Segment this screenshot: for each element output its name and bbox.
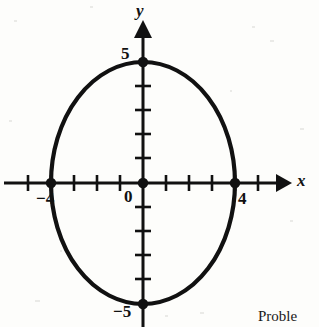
x-axis-label: x [297,172,306,189]
x-intercept-negative-label: −4 [36,190,54,207]
plot-canvas [0,0,319,327]
point-x-left [46,178,56,188]
origin-label: 0 [124,188,133,205]
point-y-top [138,57,148,67]
y-intercept-positive-label: 5 [121,45,130,62]
caption-text: Proble [258,309,297,324]
point-origin [138,178,148,188]
point-y-bottom [138,299,148,309]
x-intercept-positive-label: 4 [238,190,247,207]
y-axis-label: y [136,2,144,19]
y-axis-arrowhead [134,20,152,38]
y-intercept-negative-label: −5 [113,303,131,320]
x-axis-arrowhead [276,174,292,192]
ellipse-figure: y x 5 −5 −4 4 0 Proble [0,0,319,327]
point-x-right [230,178,240,188]
